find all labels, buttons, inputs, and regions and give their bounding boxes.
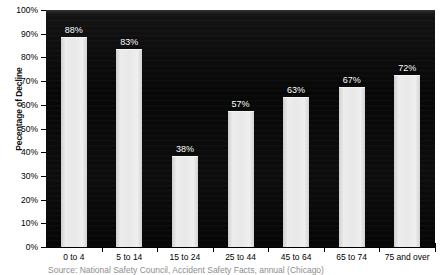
bar-group: 38% xyxy=(172,10,198,247)
x-tick-mark xyxy=(157,247,158,252)
plot-area: 88%83%38%57%63%67%72% xyxy=(46,10,435,247)
y-tick-label: 50% xyxy=(0,124,38,133)
bar-value-label: 88% xyxy=(65,25,83,35)
x-tick-label: 5 to 14 xyxy=(116,252,142,262)
x-axis-left-cap xyxy=(46,243,47,248)
bar xyxy=(61,37,87,247)
x-tick-label: 25 to 44 xyxy=(225,252,256,262)
y-tick-label: 100% xyxy=(0,6,38,15)
y-axis: 0%10%20%30%40%50%60%70%80%90%100% xyxy=(0,0,42,273)
x-tick-mark xyxy=(324,247,325,252)
bar-value-label: 67% xyxy=(343,75,361,85)
bar-value-label: 72% xyxy=(398,63,416,73)
x-tick-mark xyxy=(102,247,103,252)
y-tick-label: 20% xyxy=(0,195,38,204)
bar xyxy=(283,97,309,247)
bar-value-label: 38% xyxy=(176,144,194,154)
y-tick-label: 10% xyxy=(0,219,38,228)
bar-group: 57% xyxy=(228,10,254,247)
x-tick-mark xyxy=(213,247,214,252)
bar-value-label: 83% xyxy=(120,37,138,47)
x-tick-label: 45 to 64 xyxy=(281,252,312,262)
bar-group: 83% xyxy=(116,10,142,247)
x-tick-label: 65 to 74 xyxy=(336,252,367,262)
bar xyxy=(172,156,198,247)
bar-series: 88%83%38%57%63%67%72% xyxy=(46,10,435,247)
x-tick-mark xyxy=(268,247,269,252)
y-tick-label: 40% xyxy=(0,148,38,157)
bar-value-label: 57% xyxy=(231,99,249,109)
y-tick-label: 60% xyxy=(0,100,38,109)
y-tick-label: 80% xyxy=(0,53,38,62)
bar-group: 63% xyxy=(283,10,309,247)
x-tick-mark xyxy=(379,247,380,252)
bar xyxy=(394,75,420,247)
y-tick-label: 90% xyxy=(0,29,38,38)
source-note: Source: National Safety Council, Acciden… xyxy=(48,265,324,275)
bar xyxy=(228,111,254,247)
bar-group: 72% xyxy=(394,10,420,247)
x-tick-label: 0 to 4 xyxy=(63,252,84,262)
x-tick-mark xyxy=(435,247,436,252)
y-tick-label: 30% xyxy=(0,171,38,180)
x-tick-label: 75 and over xyxy=(385,252,430,262)
y-tick-label: 0% xyxy=(0,243,38,252)
bar xyxy=(339,87,365,247)
x-axis-line xyxy=(46,247,435,248)
bar-group: 67% xyxy=(339,10,365,247)
x-tick-label: 15 to 24 xyxy=(170,252,201,262)
y-tick-label: 70% xyxy=(0,77,38,86)
bar xyxy=(116,49,142,247)
bar-value-label: 63% xyxy=(287,85,305,95)
bar-group: 88% xyxy=(61,10,87,247)
